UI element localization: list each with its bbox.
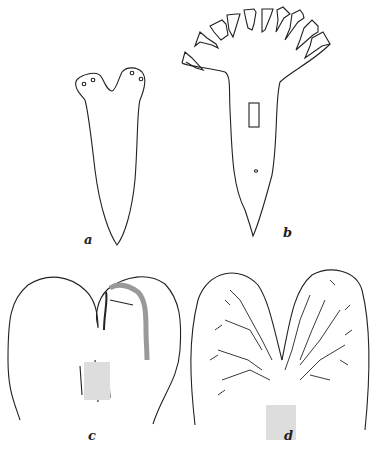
eyespot-icon — [91, 78, 95, 82]
panel-b-drawing — [182, 7, 330, 236]
eyespot-icon — [139, 77, 143, 81]
pore-icon — [254, 170, 257, 172]
eyespot-icon — [130, 71, 134, 75]
panel-c-drawing — [8, 277, 181, 424]
figure-canvas — [0, 0, 378, 450]
panel-label-a: a — [84, 232, 92, 247]
c-pharynx — [80, 360, 110, 402]
eyespot-icon — [82, 82, 86, 86]
panel-label-c: c — [88, 428, 96, 443]
panel-label-b: b — [283, 225, 292, 240]
panel-a-drawing — [76, 68, 145, 245]
panel-label-d: d — [284, 428, 293, 443]
pharynx-shape — [249, 103, 259, 127]
panel-d-drawing — [191, 270, 369, 440]
